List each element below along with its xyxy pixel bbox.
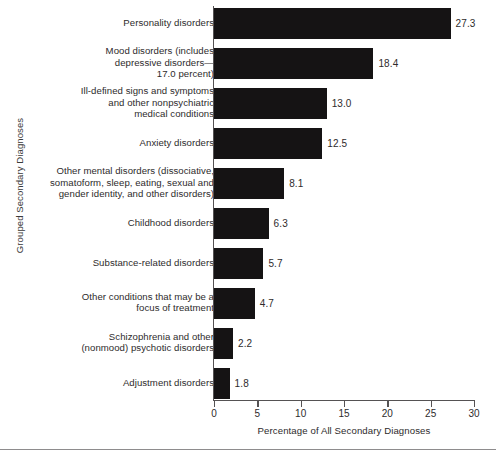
footer-rule (0, 449, 496, 450)
x-tick (387, 401, 388, 407)
chart-figure: Grouped Secondary Diagnoses Personality … (0, 0, 496, 460)
category-label: Schizophrenia and other(nonmood) psychot… (18, 331, 214, 354)
x-tick-label: 10 (286, 408, 316, 419)
category-label-line: gender identity, and other disorders) (18, 188, 214, 200)
category-label-line: Anxiety disorders (18, 137, 214, 149)
x-tick-label: 5 (242, 408, 272, 419)
x-tick-label: 0 (199, 408, 229, 419)
bar-value-label: 12.5 (327, 138, 347, 149)
x-tick-label: 15 (329, 408, 359, 419)
bar-value-label: 18.4 (378, 58, 398, 69)
x-tick-label: 30 (459, 408, 489, 419)
category-label-line: depressive disorders— (18, 57, 214, 69)
category-label: Substance-related disorders (18, 257, 214, 269)
category-label: Ill-defined signs and symptomsand other … (18, 85, 214, 120)
bar-value-label: 1.8 (235, 378, 249, 389)
bar (214, 208, 269, 239)
category-label-line: 17.0 percent) (18, 68, 214, 80)
category-label-line: somatoform, sleep, eating, sexual and (18, 177, 214, 189)
bar (214, 368, 230, 399)
category-label-line: Childhood disorders (18, 217, 214, 229)
category-label: Anxiety disorders (18, 137, 214, 149)
x-tick (344, 401, 345, 407)
x-tick-label: 20 (372, 408, 402, 419)
bar (214, 48, 373, 79)
category-label: Adjustment disorders (18, 377, 214, 389)
category-label: Other conditions that may be afocus of t… (18, 291, 214, 314)
bar (214, 288, 255, 319)
category-label: Childhood disorders (18, 217, 214, 229)
bar-value-label: 27.3 (456, 18, 476, 29)
bar (214, 248, 263, 279)
bar (214, 168, 284, 199)
category-label-line: Schizophrenia and other (18, 331, 214, 343)
y-axis-line (213, 6, 214, 401)
bar (214, 328, 233, 359)
x-tick (474, 401, 475, 407)
x-tick (301, 401, 302, 407)
category-label-line: Mood disorders (includes (18, 45, 214, 57)
bar-value-label: 13.0 (332, 98, 352, 109)
category-label-line: Other mental disorders (dissociative, (18, 165, 214, 177)
plot-area: Personality disorders27.3Mood disorders … (0, 0, 496, 412)
category-label: Other mental disorders (dissociative,som… (18, 165, 214, 200)
bar (214, 88, 327, 119)
x-tick (257, 401, 258, 407)
bar-value-label: 6.3 (274, 218, 288, 229)
bar-value-label: 4.7 (260, 298, 274, 309)
category-label-line: (nonmood) psychotic disorders (18, 342, 214, 354)
bar (214, 128, 322, 159)
bar-value-label: 5.7 (268, 258, 282, 269)
category-label-line: Substance-related disorders (18, 257, 214, 269)
category-label-line: and other nonpsychiatric (18, 97, 214, 109)
category-label-line: Adjustment disorders (18, 377, 214, 389)
x-tick (214, 401, 215, 407)
category-label-line: medical conditions (18, 108, 214, 120)
category-label-line: Personality disorders (18, 17, 214, 29)
bar-value-label: 2.2 (238, 338, 252, 349)
x-axis-title: Percentage of All Secondary Diagnoses (213, 425, 475, 436)
x-tick-label: 25 (416, 408, 446, 419)
category-label-line: focus of treatment (18, 302, 214, 314)
x-tick (431, 401, 432, 407)
bar (214, 8, 451, 39)
category-label-line: Other conditions that may be a (18, 291, 214, 303)
category-label-line: Ill-defined signs and symptoms (18, 85, 214, 97)
bar-value-label: 8.1 (289, 178, 303, 189)
category-label: Personality disorders (18, 17, 214, 29)
category-label: Mood disorders (includesdepressive disor… (18, 45, 214, 80)
